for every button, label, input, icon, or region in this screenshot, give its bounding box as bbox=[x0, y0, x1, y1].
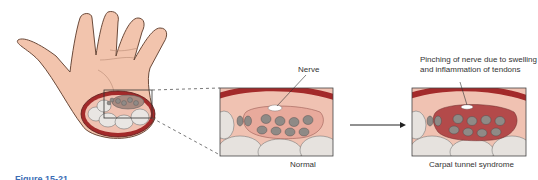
carpal-tunnel-diagram: Nerve Pinching of nerve due to swelling … bbox=[0, 0, 538, 180]
carpal-tunnel-label: Carpal tunnel syndrome bbox=[429, 160, 514, 170]
carpal-tunnel-panel bbox=[406, 82, 532, 165]
pinching-label: Pinching of nerve due to swelling and in… bbox=[420, 55, 538, 75]
nerve-label: Nerve bbox=[298, 65, 319, 75]
figure-caption: Figure 15-21 bbox=[15, 174, 68, 180]
normal-panel bbox=[214, 75, 340, 165]
hand-illustration bbox=[17, 11, 166, 138]
normal-label: Normal bbox=[290, 160, 316, 170]
